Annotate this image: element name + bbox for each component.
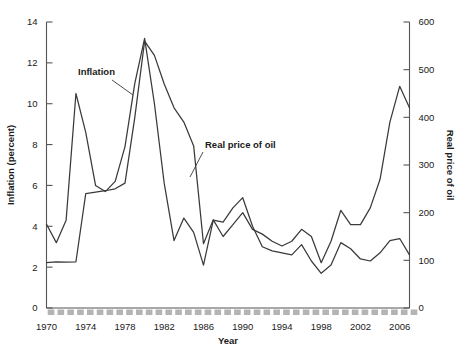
left-tick-label: 6 (32, 180, 37, 191)
x-axis-minor-blocks (48, 310, 418, 316)
x-axis-minor-block (97, 310, 104, 316)
right-tick-label: 300 (419, 159, 435, 170)
right-axis-tick-labels: 0100200300400500600 (419, 16, 435, 313)
x-axis-minor-block (303, 310, 310, 316)
inflation-leader-line (112, 80, 133, 95)
right-tick-label: 600 (419, 16, 435, 27)
x-axis-minor-block (77, 310, 84, 316)
right-tick-label: 400 (419, 112, 435, 123)
x-axis-minor-block (116, 310, 123, 316)
x-axis-minor-block (264, 310, 271, 316)
x-axis-minor-block (165, 310, 172, 316)
left-tick-label: 14 (27, 16, 38, 27)
x-axis-minor-block (273, 310, 280, 316)
inflation-oil-price-chart: 02468101214 0100200300400500600 19701974… (0, 0, 457, 347)
oil-series-label: Real price of oil (205, 139, 276, 150)
left-tick-label: 0 (32, 302, 37, 313)
left-tick-label: 12 (27, 57, 38, 68)
x-axis-minor-block (293, 310, 300, 316)
x-tick-label: 2006 (389, 321, 410, 332)
annotation-oil: Real price of oil (190, 139, 276, 177)
x-tick-label: 1986 (193, 321, 214, 332)
x-axis-minor-block (371, 310, 378, 316)
x-tick-label: 1994 (271, 321, 292, 332)
x-axis-minor-block (107, 310, 114, 316)
x-axis-minor-block (48, 310, 55, 316)
x-tick-label: 1982 (154, 321, 175, 332)
x-axis-minor-block (391, 310, 398, 316)
x-tick-label: 1990 (232, 321, 253, 332)
axes-group (47, 22, 410, 308)
x-axis-minor-block (332, 310, 339, 316)
x-axis-minor-block (58, 310, 65, 316)
x-axis-minor-block (244, 310, 251, 316)
left-axis-ticks (47, 22, 53, 308)
x-tick-label: 1998 (311, 321, 332, 332)
x-axis-minor-block (254, 310, 261, 316)
right-tick-label: 0 (419, 302, 424, 313)
x-axis-minor-block (205, 310, 212, 316)
x-tick-label: 1970 (36, 321, 57, 332)
chart-svg: 02468101214 0100200300400500600 19701974… (0, 0, 457, 347)
x-axis-minor-block (146, 310, 153, 316)
x-axis-minor-block (234, 310, 241, 316)
inflation-series-label: Inflation (78, 66, 115, 77)
x-axis-minor-block (401, 310, 408, 316)
right-axis-ticks (404, 22, 410, 308)
left-axis-tick-labels: 02468101214 (27, 16, 38, 313)
x-axis-minor-block (342, 310, 349, 316)
x-axis-minor-block (322, 310, 329, 316)
x-axis-minor-block (195, 310, 202, 316)
y-axis-title: Inflation (percent) (5, 125, 16, 205)
x-axis-minor-block (214, 310, 221, 316)
x-axis-minor-block (126, 310, 133, 316)
x-axis-minor-block (136, 310, 143, 316)
x-tick-label: 1974 (75, 321, 96, 332)
x-axis-minor-block (87, 310, 94, 316)
x-axis-minor-block (352, 310, 359, 316)
x-axis-minor-block (224, 310, 231, 316)
left-tick-label: 8 (32, 139, 37, 150)
right-tick-label: 100 (419, 255, 435, 266)
left-tick-label: 4 (32, 221, 37, 232)
x-axis-minor-block (283, 310, 290, 316)
left-tick-label: 10 (27, 98, 38, 109)
x-axis-minor-block (175, 310, 182, 316)
x-axis-minor-block (381, 310, 388, 316)
x-axis-minor-block (185, 310, 192, 316)
y2-axis-title: Real price of oil (445, 130, 456, 201)
x-axis-tick-labels: 1970197419781982198619901994199820022006 (36, 321, 410, 332)
x-axis-title: Year (218, 335, 238, 346)
x-axis-minor-block (156, 310, 163, 316)
right-tick-label: 500 (419, 64, 435, 75)
x-axis-minor-block (411, 310, 418, 316)
x-axis-minor-block (67, 310, 74, 316)
annotation-inflation: Inflation (78, 66, 133, 95)
x-tick-label: 2002 (350, 321, 371, 332)
right-tick-label: 200 (419, 207, 435, 218)
x-axis-minor-block (362, 310, 369, 316)
x-axis-minor-block (313, 310, 320, 316)
x-tick-label: 1978 (114, 321, 135, 332)
left-tick-label: 2 (32, 262, 37, 273)
